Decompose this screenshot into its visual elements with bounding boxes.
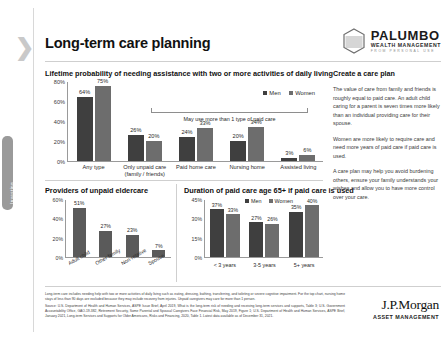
side-tab-investing[interactable]: Investing [2, 136, 13, 210]
bar-value-label: 51% [74, 200, 84, 206]
bar: 51% [73, 208, 86, 257]
y-tick-label: 0% [57, 159, 65, 165]
jpm-logo-sub: ASSET MANAGEMENT [373, 314, 439, 320]
y-tick-label: 0% [56, 255, 64, 261]
bar-women: 40% [305, 205, 319, 257]
footnotes: Long-term care includes needing help wit… [45, 292, 345, 320]
bar-value-label: 23% [127, 227, 137, 233]
hexagon-logo-icon [342, 28, 366, 54]
bar-men: 26% [128, 135, 144, 161]
footer-divider [45, 286, 441, 287]
chart-duration-paid-care: 0%15%30%45% Men Women 37%33%< 3 years27%… [184, 200, 323, 272]
x-axis-label: Paid home care [170, 164, 221, 171]
y-tick-label: 60% [53, 197, 63, 203]
bar-men: 24% [179, 137, 195, 161]
top-chart-y-axis: 0%20%40%60%80% [45, 82, 67, 162]
y-tick-label: 0% [195, 255, 203, 261]
next-chevron-icon[interactable]: ❯ [15, 36, 31, 58]
bar-women: 6% [299, 155, 315, 161]
bar-value-label: 33% [228, 207, 238, 213]
x-axis-label: 3-5 years [245, 262, 285, 268]
x-axis-label: < 3 years [205, 262, 245, 268]
top-chart-plot: Men Women 64%75%Any type26%20%Only unpai… [67, 82, 323, 162]
header-divider [45, 61, 441, 62]
bar-group: 27%26% [245, 200, 285, 257]
x-axis-label: Only unpaid care(family / friends) [119, 164, 170, 178]
x-axis-label: Assisted living [273, 164, 324, 171]
bar-men: 35% [289, 212, 303, 257]
y-tick-label: 15% [192, 236, 202, 242]
bar-value-label: 27% [251, 215, 261, 221]
slide-card: Long-term care planning PALUMBO WEALTH M… [33, 8, 443, 332]
bar-value-label: 64% [79, 89, 90, 95]
page-title: Long-term care planning [45, 35, 210, 51]
mid-divider [45, 180, 323, 181]
y-tick-label: 80% [54, 79, 65, 85]
y-tick-label: 30% [192, 216, 202, 222]
footnote-line: Source: U.S. Department of Health and Hu… [45, 304, 345, 319]
bottom-right-heading: Duration of paid care age 65+ if paid ca… [184, 186, 354, 195]
bar-group: 35%40% [284, 200, 324, 257]
bar-men: 3% [281, 158, 297, 161]
bar-value-label: 26% [130, 127, 141, 133]
y-tick-label: 20% [54, 139, 65, 145]
sidebar-paragraph: The value of care from family and friend… [333, 85, 441, 128]
br-chart-y-axis: 0%15%30%45% [184, 200, 204, 258]
bar-value-label: 27% [101, 223, 111, 229]
bar-value-label: 7% [155, 243, 163, 249]
bar-value-label: 75% [97, 78, 108, 84]
paid-care-brace [151, 108, 308, 113]
bar-women: 34% [248, 127, 264, 161]
top-chart-heading: Lifetime probability of needing assistan… [45, 69, 333, 78]
bar-value-label: 6% [303, 147, 311, 153]
bar-value-label: 37% [212, 202, 222, 208]
side-tab-label: Investing [10, 182, 15, 204]
x-axis-label: Nursing home [222, 164, 273, 171]
y-tick-label: 20% [53, 236, 63, 242]
bar-value-label: 35% [291, 204, 301, 210]
bar-value-label: 40% [307, 198, 317, 204]
bar-women: 26% [265, 224, 279, 258]
chart-lifetime-probability: 0%20%40%60%80% Men Women 64%75%Any type2… [45, 82, 323, 180]
bar-men: 64% [77, 97, 93, 161]
jpm-logo-name: J.P.Morgan [373, 297, 439, 313]
bar-group: 37%33% [205, 200, 245, 257]
logo-brand-tagline: FROM PERSONAL USE [371, 50, 441, 53]
logo-brand-sub: WEALTH MANAGEMENT [371, 43, 441, 48]
y-tick-label: 40% [54, 119, 65, 125]
bl-chart-y-axis: 0%20%40%60% [45, 200, 65, 258]
bl-chart-plot: 51%Adult child27%Other family23%Non-rela… [65, 200, 171, 258]
y-tick-label: 45% [192, 197, 202, 203]
bar-women: 20% [146, 141, 162, 161]
bar-value-label: 26% [267, 216, 277, 222]
palumbo-logo: PALUMBO WEALTH MANAGEMENT FROM PERSONAL … [342, 28, 441, 54]
bar-men: 20% [230, 141, 246, 161]
x-axis-label: 5+ years [284, 262, 324, 268]
brace-note: May use more than 1 type of paid care [151, 116, 308, 122]
bar-value-label: 20% [148, 133, 159, 139]
sidebar-heading: Create a care plan [333, 69, 441, 78]
bar-group: 64%75% [68, 82, 119, 161]
bar-women: 33% [226, 214, 240, 257]
bar-women: 33% [197, 128, 213, 161]
br-chart-plot: Men Women 37%33%< 3 years27%26%3-5 years… [204, 200, 323, 258]
bottom-charts-divider [176, 184, 177, 282]
slide-page: ❯ Investing Long-term care planning PALU… [0, 0, 446, 340]
card-left-rule [33, 8, 34, 332]
y-tick-label: 60% [54, 99, 65, 105]
jpmorgan-logo: J.P.Morgan ASSET MANAGEMENT [373, 297, 439, 320]
chart-providers-unpaid-eldercare: 0%20%40%60% 51%Adult child27%Other famil… [45, 200, 171, 272]
sidebar-paragraph: Women are more likely to require care an… [333, 135, 441, 161]
x-axis-label: Any type [68, 164, 119, 171]
bar-value-label: 3% [285, 150, 293, 156]
bottom-left-heading: Providers of unpaid eldercare [45, 186, 148, 195]
bar-value-label: 20% [233, 133, 244, 139]
bar-men: 37% [210, 209, 224, 257]
footnote-line: Long-term care includes needing help wit… [45, 292, 345, 302]
sidebar-paragraph: A care plan may help you avoid burdening… [333, 167, 441, 201]
sidebar-care-plan: Create a care plan The value of care fro… [333, 69, 441, 208]
logo-brand-name: PALUMBO [371, 29, 441, 42]
bar-women: 75% [95, 86, 111, 161]
bar-value-label: 24% [181, 129, 192, 135]
bar-men: 27% [249, 222, 263, 257]
